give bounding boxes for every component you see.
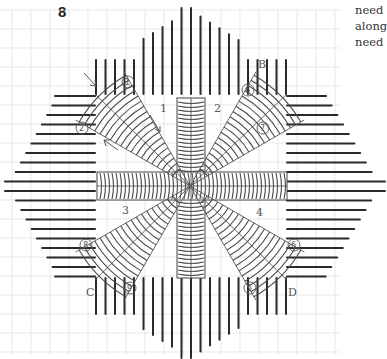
start-point-number: 6: [291, 241, 296, 250]
section-label: 4: [256, 206, 263, 219]
start-point-number: 7: [260, 124, 265, 133]
section-label: 3: [122, 204, 129, 217]
start-point-number: 9: [127, 284, 132, 293]
section-label: 1: [160, 102, 167, 115]
corner-label: D: [288, 286, 297, 299]
corner-label: B: [258, 58, 266, 71]
corner-label: C: [86, 286, 94, 299]
start-point-number: 8: [83, 241, 88, 250]
start-point-number: 1: [125, 78, 130, 87]
stitch-diagram: 1234BCD12678956: [0, 0, 387, 359]
start-point-number: 2: [79, 124, 84, 133]
arrow-icon: [84, 73, 96, 86]
start-point-number: 5: [247, 284, 252, 293]
section-label: 2: [214, 102, 221, 115]
start-point-number: 6: [245, 86, 250, 95]
